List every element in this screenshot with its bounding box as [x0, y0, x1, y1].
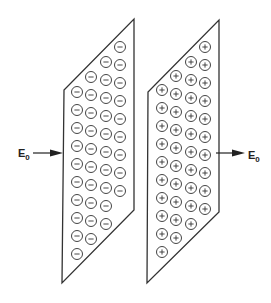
outgoing-arrow-head [232, 150, 245, 157]
negative-charge [115, 132, 126, 143]
positive-charge [157, 85, 168, 96]
negative-charge [115, 114, 126, 125]
negative-charge [72, 87, 83, 98]
negative-charge [86, 126, 97, 137]
negative-charge [86, 144, 97, 155]
positive-charge [171, 179, 182, 190]
negative-charge [72, 231, 83, 242]
negative-charge [101, 129, 112, 140]
incoming-field-label: E0 [18, 147, 30, 162]
negative-charge [115, 96, 126, 107]
positive-charge [200, 132, 211, 143]
negative-charge [72, 141, 83, 152]
positive-charge [186, 75, 197, 86]
positive-charge [200, 204, 211, 215]
negative-charge [101, 165, 112, 176]
positive-charge [200, 60, 211, 71]
positive-charge [157, 139, 168, 150]
negative-charge [101, 57, 112, 68]
incoming-arrow-head [50, 150, 63, 157]
positive-charge [157, 247, 168, 258]
positive-charge [186, 129, 197, 140]
positive-charge [157, 193, 168, 204]
positive-charge [200, 78, 211, 89]
negative-charge [72, 159, 83, 170]
positive-charge [200, 150, 211, 161]
positive-charge [171, 89, 182, 100]
negative-charge [86, 72, 97, 83]
positive-charge [200, 168, 211, 179]
negative-charge [115, 150, 126, 161]
positive-charge [157, 211, 168, 222]
positive-charge [157, 175, 168, 186]
negative-charge [86, 90, 97, 101]
negative-charge [115, 186, 126, 197]
positive-charge [171, 71, 182, 82]
negative-charge [115, 42, 126, 53]
negative-charge [101, 183, 112, 194]
incoming-field-arrow [33, 150, 63, 157]
outgoing-field-label: E0 [248, 149, 260, 164]
positive-charge [186, 219, 197, 230]
negative-charge [101, 93, 112, 104]
positive-charge [157, 103, 168, 114]
negative-charge [86, 198, 97, 209]
positive-charge [171, 215, 182, 226]
negative-charge [115, 60, 126, 71]
negative-charge [72, 177, 83, 188]
positive-charge [171, 197, 182, 208]
positive-charge [186, 147, 197, 158]
positive-charge [186, 201, 197, 212]
outgoing-field-arrow [216, 150, 245, 157]
negative-charge [115, 78, 126, 89]
negative-charge [72, 105, 83, 116]
positive-charge [186, 57, 197, 68]
positive-charge [171, 107, 182, 118]
negative-charge [115, 168, 126, 179]
negative-charge [72, 195, 83, 206]
positive-charge [157, 121, 168, 132]
positive-charge [200, 114, 211, 125]
negative-charge [86, 180, 97, 191]
positive-charge [200, 42, 211, 53]
negative-charge [101, 75, 112, 86]
negative-charge [101, 219, 112, 230]
negative-charge [72, 123, 83, 134]
negative-charge [72, 213, 83, 224]
positive-charge [186, 93, 197, 104]
positive-charge [200, 186, 211, 197]
positive-charge [157, 157, 168, 168]
negative-charge [86, 108, 97, 119]
negative-charge [101, 147, 112, 158]
positive-charge [171, 161, 182, 172]
diagram-canvas: E0 E0 [0, 0, 271, 303]
positive-charge [171, 125, 182, 136]
positive-charge [200, 96, 211, 107]
negative-charge [86, 216, 97, 227]
negative-charge [72, 249, 83, 260]
positive-charge [157, 229, 168, 240]
positive-charge [186, 183, 197, 194]
negative-charge [86, 234, 97, 245]
positive-charge [171, 233, 182, 244]
negative-charge [101, 111, 112, 122]
positive-charge [186, 165, 197, 176]
positive-charge [186, 111, 197, 122]
negative-charge [101, 201, 112, 212]
positive-charge [171, 143, 182, 154]
negative-charge [86, 162, 97, 173]
